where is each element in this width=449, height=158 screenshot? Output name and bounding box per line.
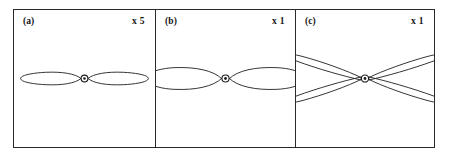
lobe-upper-right bbox=[369, 54, 434, 80]
lobe-lower-right bbox=[369, 77, 434, 103]
lobe-left bbox=[21, 72, 81, 85]
panel-b: (b) x 1 bbox=[156, 10, 296, 147]
lobe-upper-left bbox=[296, 54, 361, 80]
center-origin-dot bbox=[224, 77, 227, 80]
figure-frame: (a) x 5 (b) x 1 bbox=[13, 9, 435, 148]
center-origin-dot bbox=[364, 77, 367, 80]
lobe-lower-left bbox=[296, 77, 361, 103]
panel-c: (c) x 1 bbox=[296, 10, 434, 147]
center-origin-dot bbox=[83, 77, 86, 80]
panel-a-pattern bbox=[14, 10, 155, 147]
lobe-left bbox=[156, 68, 222, 90]
figure-root: (a) x 5 (b) x 1 bbox=[0, 0, 449, 158]
panel-b-pattern bbox=[156, 10, 295, 147]
lobe-right bbox=[88, 72, 148, 85]
panel-a: (a) x 5 bbox=[14, 10, 156, 147]
lobe-right bbox=[229, 68, 295, 90]
panel-c-pattern bbox=[296, 10, 434, 147]
